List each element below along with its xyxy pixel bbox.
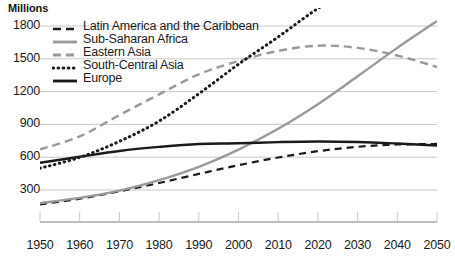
chart-legend: Latin America and the CaribbeanSub-Sahar… [52,20,259,85]
y-tick-label-1500: 1500 [0,51,40,65]
legend-item-europe[interactable]: Europe [52,72,259,85]
x-tick-label-1950: 1950 [18,238,62,252]
y-tick-label-600: 600 [0,149,40,163]
x-tick-label-1980: 1980 [137,238,181,252]
x-tick-label-2040: 2040 [375,238,419,252]
x-tick-label-2030: 2030 [336,238,380,252]
x-tick-label-2050: 2050 [415,238,455,252]
y-tick-label-900: 900 [0,116,40,130]
x-tick-label-1960: 1960 [58,238,102,252]
y-tick-label-300: 300 [0,182,40,196]
legend-swatch-eastern-asia-icon [52,47,78,59]
x-axis-ticks [40,212,437,222]
legend-swatch-south-central-asia-icon [52,60,78,72]
legend-swatch-sub-saharan-africa-icon [52,34,78,46]
x-tick-label-1990: 1990 [177,238,221,252]
x-tick-label-2020: 2020 [296,238,340,252]
x-tick-label-1970: 1970 [97,238,141,252]
x-tick-label-2000: 2000 [217,238,261,252]
chart-footnote [0,258,444,266]
legend-swatch-latin-america-icon [52,21,78,33]
x-tick-label-2010: 2010 [256,238,300,252]
legend-swatch-europe-icon [52,73,78,85]
y-tick-label-1800: 1800 [0,18,40,32]
legend-label-europe: Europe [83,72,122,85]
y-tick-label-1200: 1200 [0,84,40,98]
